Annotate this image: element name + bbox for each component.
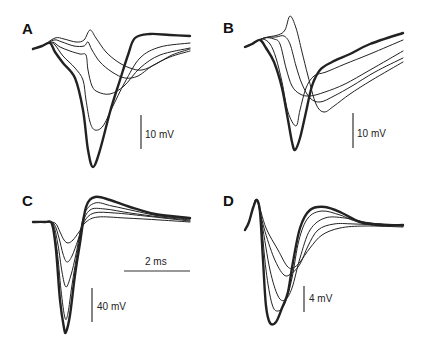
panel-label-a: A: [22, 20, 33, 37]
panel-label-b: B: [223, 19, 234, 36]
panel-c-time-label: 2 ms: [145, 256, 167, 267]
panel-label-c: C: [22, 192, 33, 209]
panel-a-trace-thick: [33, 34, 190, 167]
panel-c-scale-label: 40 mV: [97, 301, 126, 312]
panel-d-scale-label: 4 mV: [309, 293, 333, 304]
panel-b-scale-label: 10 mV: [357, 128, 386, 139]
panel-a-traces: [33, 30, 190, 167]
panel-a: A 10 mV: [22, 20, 190, 167]
panel-b-trace-5: [245, 16, 403, 112]
panel-d: D 4 mV: [223, 192, 403, 325]
figure-canvas: A 10 mV B 10 mV C 2 ms 40 mV D 4 mV: [0, 0, 423, 357]
figure: A 10 mV B 10 mV C 2 ms 40 mV D 4 mV: [0, 0, 423, 357]
panel-a-trace-3: [33, 42, 190, 94]
panel-a-trace-5: [33, 30, 190, 70]
panel-c: C 2 ms 40 mV: [22, 192, 190, 333]
panel-b: B 10 mV: [223, 16, 403, 150]
panel-a-scale-label: 10 mV: [145, 129, 174, 140]
panel-d-traces: [245, 199, 403, 324]
panel-label-d: D: [223, 192, 234, 209]
panel-d-trace-5: [245, 199, 403, 268]
